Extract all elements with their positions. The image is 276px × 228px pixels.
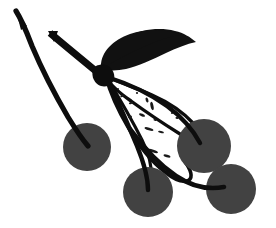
- cherry-illustration-canvas: Silhouette illustration of a branch bear…: [0, 0, 276, 228]
- leaf-speckle: [117, 88, 119, 90]
- leaf-speckle: [136, 92, 138, 94]
- cherry-upper-right: [177, 119, 231, 173]
- cherry-branch-vector: [0, 0, 276, 228]
